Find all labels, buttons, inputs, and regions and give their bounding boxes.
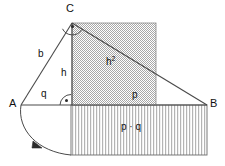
side-label-p: p [132,90,138,100]
area-label-p-times-q: p · q [121,122,141,132]
side-label-b: b [38,49,44,59]
rotation-arc-arrow [21,105,71,155]
area-label-h-squared: h2 [106,55,115,67]
geometry-figure: A B C b h q p h2 p · q [0,0,225,166]
vertex-label-a: A [9,98,16,109]
vertex-label-b: B [210,98,217,109]
right-angle-dot-foot [65,99,68,102]
vertex-label-c: C [66,3,74,14]
right-angle-dot-c [71,25,74,28]
area-label-h-exponent: 2 [112,55,116,62]
side-label-h: h [61,68,67,78]
geometry-diagram [0,0,225,166]
side-label-q: q [41,89,47,99]
